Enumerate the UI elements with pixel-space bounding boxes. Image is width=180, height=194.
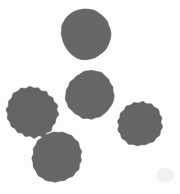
blob-left-lower (32, 132, 82, 182)
image-canvas (0, 0, 180, 194)
blob-scene (0, 0, 180, 194)
artifact-layer (156, 168, 174, 182)
corner-smudge (156, 168, 174, 182)
